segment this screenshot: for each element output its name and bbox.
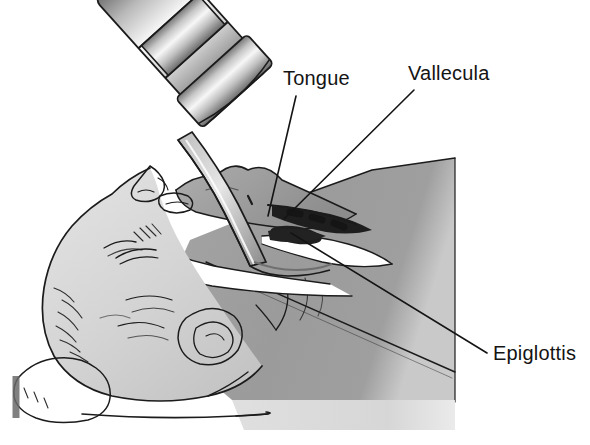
label-epiglottis: Epiglottis (493, 342, 576, 364)
laryngoscopy-illustration: Tongue Vallecula Epiglottis (0, 0, 590, 445)
label-vallecula: Vallecula (408, 62, 490, 84)
illustration-canvas: Tongue Vallecula Epiglottis (0, 0, 590, 445)
label-tongue: Tongue (283, 67, 350, 89)
lower-body-panel (232, 400, 455, 430)
laryngoscope-handle (90, 0, 274, 128)
